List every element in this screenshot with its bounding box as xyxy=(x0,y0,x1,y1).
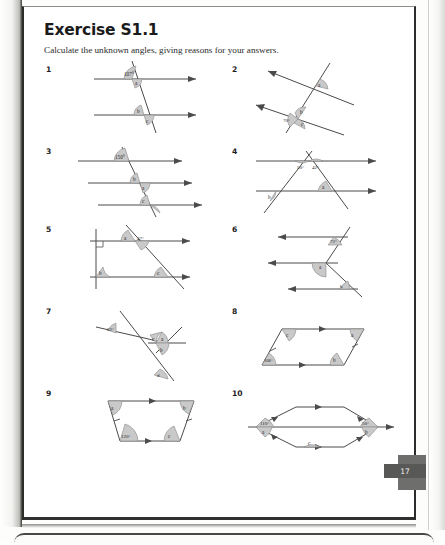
angle-label: b xyxy=(133,176,136,182)
figure-4: 50° 42° a b xyxy=(250,143,400,221)
page-number: 17 xyxy=(384,464,426,478)
page-title: Exercise S1.1 xyxy=(44,21,158,39)
question-number-1: 1 xyxy=(46,65,51,74)
page-shadow xyxy=(22,524,416,528)
angle-label: b xyxy=(268,194,271,200)
angle-label: 50° xyxy=(297,165,304,170)
question-number-8: 8 xyxy=(232,307,237,316)
angle-label: b xyxy=(333,357,336,363)
question-number-9: 9 xyxy=(46,389,51,398)
question-number-10: 10 xyxy=(232,389,243,398)
angle-label: 150° xyxy=(115,154,125,160)
book-binding-edge xyxy=(0,0,22,527)
figure-3: 150° a b c xyxy=(70,143,230,221)
angle-label: b xyxy=(300,109,303,115)
instruction-text: Calculate the unknown angles, giving rea… xyxy=(44,45,279,55)
angle-label: b xyxy=(99,270,102,276)
figure-10: 110° a 50° b c xyxy=(246,395,406,461)
angle-label: b xyxy=(183,405,186,411)
figure-6: 72° a b xyxy=(262,219,402,299)
angle-label: b xyxy=(365,429,368,435)
figure-2: a b c 70° xyxy=(252,57,392,135)
next-page-edge xyxy=(14,533,434,545)
question-number-6: 6 xyxy=(232,225,237,234)
angle-label: 47° xyxy=(137,236,144,241)
angle-label: 62° xyxy=(107,327,114,332)
angle-label: 42° xyxy=(312,165,319,170)
angle-label: 120° xyxy=(121,434,131,439)
question-number-7: 7 xyxy=(46,307,51,316)
figure-7: 62° c a b d xyxy=(86,303,236,387)
angle-label: 107° xyxy=(124,71,134,77)
angle-label: 108° xyxy=(264,358,273,363)
figure-5: a 47° b c xyxy=(82,219,232,299)
angle-label: 110° xyxy=(260,421,269,426)
figure-9: a b 120° c xyxy=(86,393,226,463)
question-number-4: 4 xyxy=(232,147,237,156)
worksheet-page: Exercise S1.1 Calculate the unknown angl… xyxy=(22,6,416,520)
angle-label: b xyxy=(160,347,163,353)
question-number-5: 5 xyxy=(46,225,51,234)
page-right-edge xyxy=(428,0,445,530)
angle-label: b xyxy=(137,108,140,114)
question-number-2: 2 xyxy=(232,65,237,74)
angle-label: 50° xyxy=(362,421,369,426)
angle-label: 70° xyxy=(283,118,290,123)
figure-8: c a 108° b xyxy=(256,317,396,387)
figure-1: 107° a b c xyxy=(84,57,224,135)
question-number-3: 3 xyxy=(46,147,51,156)
angle-label: 72° xyxy=(330,239,337,244)
